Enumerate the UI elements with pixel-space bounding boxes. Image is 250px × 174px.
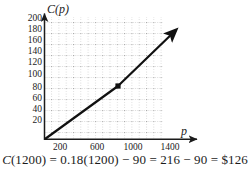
kink-point-marker: [115, 83, 120, 88]
x-tick-label: 1000: [124, 142, 143, 152]
x-tick-label: 1400: [161, 142, 180, 152]
x-axis-label: p: [180, 124, 187, 138]
caption-function-name: C: [2, 152, 11, 167]
y-tick-label: 120: [28, 57, 43, 67]
cost-function-figure: 200 180 160 140 120 100 80 60 40 20 200 …: [0, 0, 250, 174]
chart-canvas: 200 180 160 140 120 100 80 60 40 20 200 …: [0, 0, 250, 174]
caption-body: (1200) = 0.18(1200) − 90 = 216 − 90 = $1…: [11, 152, 248, 167]
x-tick-label: 600: [90, 142, 105, 152]
y-tick-label: 20: [33, 115, 43, 125]
y-tick-label: 200: [28, 13, 43, 23]
x-tick-labels: 200 600 1000 1400: [53, 142, 180, 152]
caption-equation: C(1200) = 0.18(1200) − 90 = 216 − 90 = $…: [0, 152, 250, 168]
x-tick-label: 200: [53, 142, 68, 152]
plot-grid: [45, 17, 163, 139]
y-tick-label: 180: [28, 24, 43, 34]
y-tick-label: 80: [33, 82, 43, 92]
y-tick-label: 160: [28, 35, 43, 45]
y-tick-labels: 200 180 160 140 120 100 80 60 40 20: [28, 13, 43, 126]
y-axis-label: C(p): [47, 2, 69, 16]
y-tick-label: 140: [28, 46, 43, 56]
y-tick-label: 40: [33, 104, 43, 114]
y-tick-label: 60: [33, 93, 43, 103]
y-tick-label: 100: [28, 69, 43, 79]
